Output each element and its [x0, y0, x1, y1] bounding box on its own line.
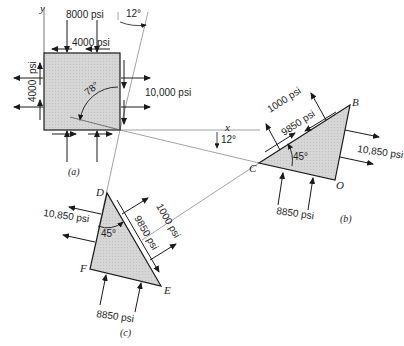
sigma-x-label: 10,000 psi: [145, 87, 191, 98]
vertex-d: D: [95, 186, 104, 198]
y-axis-label: y: [39, 2, 45, 14]
element-a: y 8000 psi 4000 psi 4000 psi 10,000 psi …: [14, 2, 191, 178]
x-axis-annotation: x 12°: [217, 121, 236, 148]
element-c: D F E 10,850 psi 1000 psi 9850 psi 45° 8…: [43, 186, 183, 339]
caption-a: (a): [68, 166, 80, 178]
vertex-e: E: [163, 284, 171, 296]
caption-b: (b): [340, 213, 352, 225]
x-axis-label: x: [224, 121, 230, 133]
tau-side-unit: psi: [27, 61, 38, 74]
caption-c: (c): [120, 327, 132, 339]
angle-12-x-label: 12°: [221, 134, 236, 145]
element-b: B C O 1000 psi 9850 psi 10,850 psi 8850 …: [249, 85, 404, 225]
angle-45-c-label: 45°: [101, 228, 116, 239]
tau-side-value: 4000: [27, 79, 38, 102]
normal-stress-b-label: 1000 psi: [265, 85, 303, 115]
vertex-c: C: [249, 162, 257, 174]
sigma-y-label: 8000 psi: [66, 9, 104, 20]
stress-transformation-diagram: y 8000 psi 4000 psi 4000 psi 10,000 psi …: [0, 0, 404, 346]
tau-top-label: 4000 psi: [72, 37, 110, 48]
bottom-stress-c-label: 8850 psi: [96, 308, 135, 324]
stress-element-square: [44, 53, 120, 130]
angle-45-b-label: 45°: [293, 151, 308, 162]
vertex-b: B: [352, 96, 359, 108]
normal-stress-c-label: 1000 psi: [154, 202, 182, 240]
angle-12-top-label: 12°: [126, 8, 141, 19]
vertex-o: O: [336, 179, 344, 191]
right-stress-b-label: 10,850 psi: [357, 143, 404, 160]
construction-lines: [98, 12, 260, 240]
vertex-f: F: [79, 262, 87, 274]
